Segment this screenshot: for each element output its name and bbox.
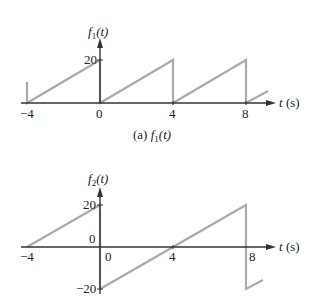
f2-ytick-label-m20: −20 xyxy=(76,281,96,296)
f1-xtick-label-8: 8 xyxy=(242,106,249,121)
f2-xtick-label-8: 8 xyxy=(249,249,256,264)
f1-ytick-label-20: 20 xyxy=(84,52,97,67)
f2-x-axis-arrow-icon xyxy=(266,244,276,250)
f2-xtick-label-0: 0 xyxy=(105,249,112,264)
plot-f1: 20 −4 0 4 8 f1(t) t (s) (a) f1(t) xyxy=(20,24,300,144)
f1-x-axis-label: t (s) xyxy=(279,95,300,110)
f2-xtick-label-4: 4 xyxy=(169,249,176,264)
f2-ytick-label-0: 0 xyxy=(89,231,96,246)
caption-a: (a) f1(t) xyxy=(133,127,171,144)
f2-x-axis-label: t (s) xyxy=(279,239,300,254)
plot-f2: 20 0 −20 −4 0 4 8 f2(t) t (s) xyxy=(20,171,300,296)
f1-y-axis-label: f1(t) xyxy=(88,24,108,41)
f1-signal xyxy=(27,60,268,103)
figure: 20 −4 0 4 8 f1(t) t (s) (a) f1(t) 20 0 −… xyxy=(0,0,320,297)
f2-y-axis-label: f2(t) xyxy=(88,171,108,188)
f2-xtick-label-m4: −4 xyxy=(20,249,34,264)
f2-ytick-label-20: 20 xyxy=(83,197,96,212)
f1-xtick-label-4: 4 xyxy=(169,106,176,121)
f1-xtick-label-0: 0 xyxy=(96,106,103,121)
f1-xtick-label-m4: −4 xyxy=(20,106,34,121)
f2-y-axis-arrow-icon xyxy=(97,187,103,197)
f1-x-axis-arrow-icon xyxy=(266,100,276,106)
f1-y-axis-arrow-icon xyxy=(97,38,103,48)
